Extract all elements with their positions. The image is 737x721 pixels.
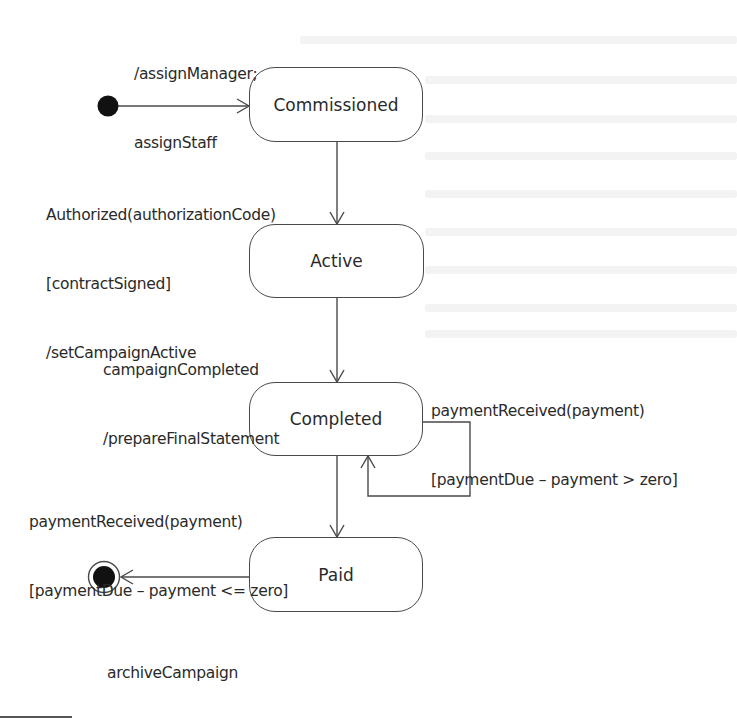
state-label: Completed <box>290 409 383 429</box>
label-line: /assignManager; <box>134 63 258 86</box>
label-line: Authorized(authorizationCode) <box>46 204 276 227</box>
label-line: /prepareFinalStatement <box>103 428 279 451</box>
label-active-to-completed: campaignCompleted /prepareFinalStatement <box>103 313 279 474</box>
state-label: Paid <box>318 565 353 585</box>
label-line: [paymentDue – payment <= zero] <box>29 580 288 603</box>
label-initial-to-commissioned: /assignManager; assignStaff <box>134 17 258 178</box>
label-line: paymentReceived(payment) <box>29 511 288 534</box>
label-line: campaignCompleted <box>103 359 279 382</box>
label-completed-self-loop: paymentReceived(payment) [paymentDue – p… <box>431 354 677 515</box>
footnote-divider <box>0 716 72 718</box>
label-line: assignStaff <box>134 132 258 155</box>
label-line: [paymentDue – payment > zero] <box>431 469 677 492</box>
label-paid-to-final: archiveCampaign /unassignStaff; unassign… <box>107 616 240 721</box>
label-line: [contractSigned] <box>46 273 276 296</box>
state-commissioned: Commissioned <box>249 67 423 142</box>
label-line: paymentReceived(payment) <box>431 400 677 423</box>
label-line: archiveCampaign <box>107 662 240 685</box>
state-label: Commissioned <box>274 95 399 115</box>
initial-state-icon <box>98 96 119 117</box>
state-label: Active <box>310 251 363 271</box>
label-completed-to-paid: paymentReceived(payment) [paymentDue – p… <box>29 465 288 626</box>
